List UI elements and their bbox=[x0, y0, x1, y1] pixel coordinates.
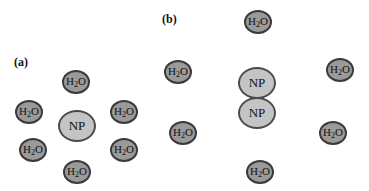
nanoparticle: NP bbox=[238, 97, 276, 129]
panel-label: (b) bbox=[162, 12, 177, 27]
water-molecule: H2O bbox=[326, 58, 354, 82]
nanoparticle-water-diagram: (a)H2OH2OH2OH2OH2OH2ONP(b)H2OH2OH2OH2OH2… bbox=[0, 0, 369, 191]
nanoparticle: NP bbox=[238, 67, 276, 99]
water-molecule: H2O bbox=[164, 60, 192, 84]
water-molecule: H2O bbox=[15, 100, 43, 124]
water-molecule: H2O bbox=[169, 121, 197, 145]
water-molecule: H2O bbox=[319, 121, 347, 145]
nanoparticle: NP bbox=[58, 110, 96, 142]
water-molecule: H2O bbox=[19, 138, 47, 162]
water-molecule: H2O bbox=[63, 160, 91, 184]
water-molecule: H2O bbox=[62, 70, 90, 94]
water-molecule: H2O bbox=[110, 100, 138, 124]
water-molecule: H2O bbox=[244, 10, 272, 34]
water-molecule: H2O bbox=[110, 138, 138, 162]
panel-label: (a) bbox=[14, 55, 28, 70]
water-molecule: H2O bbox=[246, 160, 274, 184]
